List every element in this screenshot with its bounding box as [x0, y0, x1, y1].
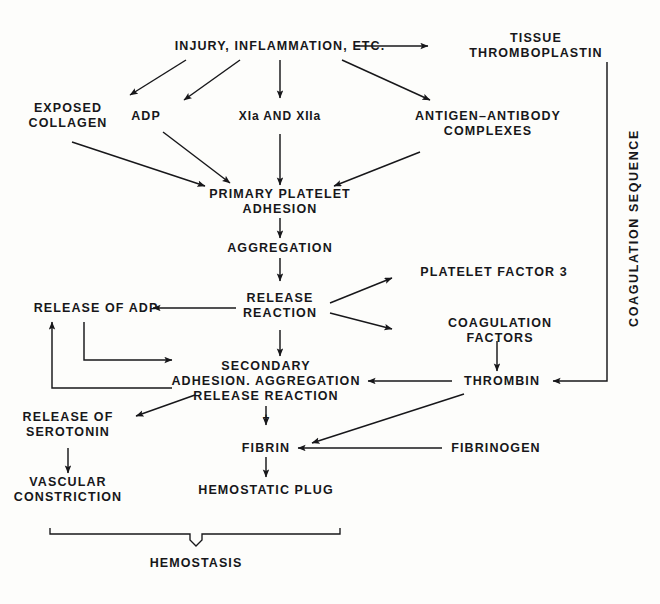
edge-release-to-platelet-factor-3 [330, 278, 392, 303]
node-coagulation-factors: COAGULATION FACTORS [420, 316, 580, 346]
node-exposed-collagen: EXPOSED COLLAGEN [29, 101, 108, 131]
label-coagulation-sequence: COAGULATION SEQUENCE [627, 129, 641, 327]
node-primary-platelet-adhesion: PRIMARY PLATELET ADHESION [209, 187, 351, 217]
edge-feedback-adp-to-secondary [84, 322, 172, 360]
node-factors-xia-xiia: XIa AND XIIa [239, 109, 321, 124]
node-release-of-adp: RELEASE OF ADP [34, 301, 159, 316]
edge-adp-to-primary-adhesion [163, 132, 230, 183]
edge-injury-to-adp [184, 60, 240, 100]
hemostasis-brace [50, 528, 340, 546]
plus-sign: + [262, 411, 269, 425]
node-fibrinogen: FIBRINOGEN [451, 441, 540, 456]
edge-release-to-coagulation-factors [330, 313, 392, 329]
node-injury: INJURY, INFLAMMATION, ETC. [175, 39, 386, 54]
edge-collagen-to-primary-adhesion [72, 142, 205, 186]
edge-injury-to-exposed-collagen [130, 60, 186, 95]
node-hemostatic-plug: HEMOSTATIC PLUG [198, 483, 333, 498]
node-thrombin: THROMBIN [464, 374, 540, 389]
node-vascular-constriction: VASCULAR CONSTRICTION [14, 475, 122, 505]
node-secondary-adhesion: SECONDARY ADHESION. AGGREGATION RELEASE … [171, 359, 360, 404]
edge-antigen-to-primary-adhesion [334, 152, 420, 186]
hemostasis-flow-diagram: INJURY, INFLAMMATION, ETC. TISSUE THROMB… [0, 0, 660, 604]
node-aggregation: AGGREGATION [227, 241, 333, 256]
node-platelet-factor-3: PLATELET FACTOR 3 [420, 265, 567, 280]
node-adp: ADP [131, 109, 161, 124]
node-antigen-antibody-complexes: ANTIGEN–ANTIBODY COMPLEXES [415, 109, 561, 139]
node-fibrin: FIBRIN [242, 441, 290, 456]
node-hemostasis: HEMOSTASIS [150, 556, 243, 571]
node-release-of-serotonin: RELEASE OF SEROTONIN [23, 410, 114, 440]
edge-feedback-secondary-to-adp [52, 322, 172, 388]
edge-injury-to-antigen-antibody [342, 60, 430, 100]
node-release-reaction: RELEASE REACTION [243, 291, 317, 321]
node-tissue-thromboplastin: TISSUE THROMBOPLASTIN [469, 31, 602, 61]
